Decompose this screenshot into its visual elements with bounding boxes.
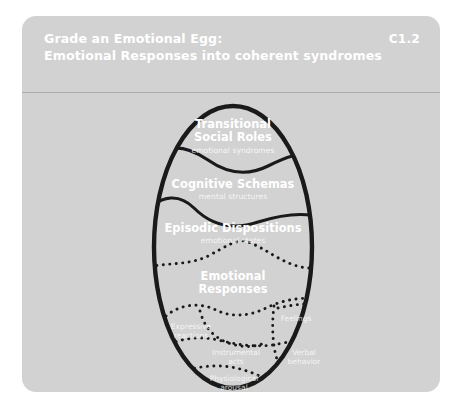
title-line-2: Emotional Responses into coherent syndro… bbox=[44, 47, 374, 64]
slide-header: Grade an Emotional Egg: Emotional Respon… bbox=[22, 16, 440, 90]
slide-card: Grade an Emotional Egg: Emotional Respon… bbox=[22, 16, 440, 392]
divider-dotted-2 bbox=[166, 298, 324, 316]
title-line-1: Grade an Emotional Egg: bbox=[44, 30, 374, 47]
egg-diagram: Transitional Social Roles emotional synd… bbox=[22, 90, 440, 392]
divider-solid-2 bbox=[146, 198, 322, 226]
egg-outline bbox=[154, 106, 312, 388]
divider-dotted-3 bbox=[200, 311, 262, 346]
page-title: Grade an Emotional Egg: Emotional Respon… bbox=[44, 30, 374, 64]
slide-code-badge: C1.2 bbox=[389, 32, 420, 46]
divider-dotted-4 bbox=[170, 338, 322, 346]
egg-diagram-graphic bbox=[22, 90, 440, 392]
